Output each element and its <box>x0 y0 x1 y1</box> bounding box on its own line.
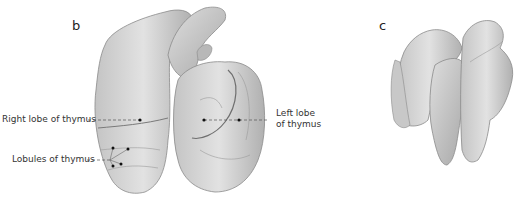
label-left-lobe-line2: of thymus <box>276 119 321 130</box>
label-left-lobe-of-thymus: Left lobe of thymus <box>276 108 321 130</box>
label-left-lobe-line1: Left lobe <box>276 108 321 119</box>
label-right-lobe-of-thymus: Right lobe of thymus <box>2 114 96 125</box>
left-lobe-of-thymus <box>174 62 265 192</box>
anatomy-illustration <box>0 0 528 201</box>
label-lobules-of-thymus: Lobules of thymus <box>12 154 95 165</box>
isolated-thymus-lobes <box>391 21 513 165</box>
